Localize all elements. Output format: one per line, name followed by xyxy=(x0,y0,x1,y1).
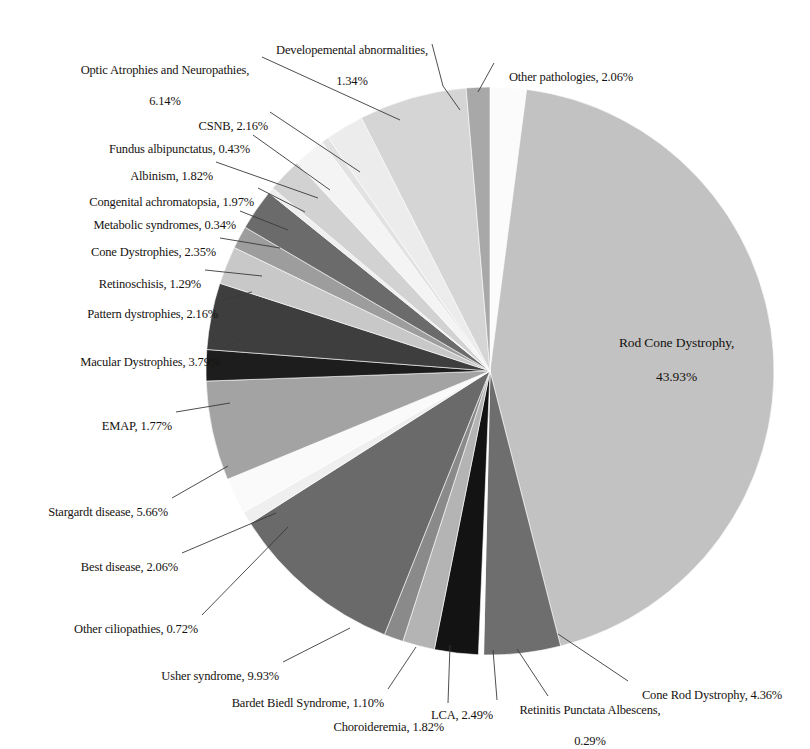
callout-lca: LCA, 2.49% xyxy=(408,693,493,739)
callout-text-line1: Optic Atrophies and Neuropathies, xyxy=(81,63,250,77)
callout-text-line1: Other pathologies, 2.06% xyxy=(509,70,633,84)
leader-line-cone-rod xyxy=(558,634,628,681)
callout-best-disease: Best disease, 2.06% xyxy=(28,545,178,591)
callout-text-line1: LCA, 2.49% xyxy=(431,708,493,722)
callout-text-line1: Other ciliopathies, 0.72% xyxy=(74,622,198,636)
callout-text-line1: Cone Rod Dystrophy, 4.36% xyxy=(642,688,782,702)
callout-text-line1: Stargardt disease, 5.66% xyxy=(48,505,168,519)
callout-text-line1: Pattern dystrophies, 2.16% xyxy=(87,307,218,321)
callout-text-line1: EMAP, 1.77% xyxy=(102,419,172,433)
leader-line-usher-syndrome xyxy=(283,628,350,662)
inner-label-line2: 43.93% xyxy=(656,369,697,384)
callout-other-pathologies: Other pathologies, 2.06% xyxy=(497,55,727,101)
callout-text-line1: Developemental abnormalities, xyxy=(276,43,428,57)
leader-line-other-ciliopathies xyxy=(202,527,288,615)
callout-macular-dystrophies: Macular Dystrophies, 3.79% xyxy=(12,340,220,386)
callout-text-line2: 1.34% xyxy=(336,74,368,88)
leader-line-stargardt xyxy=(172,466,228,498)
slice-label-rod-cone-dystrophy: Rod Cone Dystrophy, 43.93% xyxy=(578,318,762,402)
callout-text-line1: Retinoschisis, 1.29% xyxy=(99,277,201,291)
callout-cone-rod-dystrophy: Cone Rod Dystrophy, 4.36% xyxy=(630,673,810,719)
callout-text-line2: 0.29% xyxy=(574,734,606,748)
callout-stargardt-disease: Stargardt disease, 5.66% xyxy=(12,490,168,536)
callout-other-ciliopathies: Other ciliopathies, 0.72% xyxy=(22,607,198,653)
callout-text-line1: Best disease, 2.06% xyxy=(81,560,178,574)
callout-pattern-dystrophies: Pattern dystrophies, 2.16% xyxy=(12,292,218,338)
callout-emap: EMAP, 1.77% xyxy=(12,404,172,450)
leader-line-bardet-biedl xyxy=(388,647,416,689)
callout-text-line1: Macular Dystrophies, 3.79% xyxy=(80,355,220,369)
callout-developmental-abnormalities: Developemental abnormalities, 1.34% xyxy=(231,28,461,104)
inner-label-line1: Rod Cone Dystrophy, xyxy=(619,335,734,350)
callout-text-line1: Cone Dystrophies, 2.35% xyxy=(91,245,216,259)
